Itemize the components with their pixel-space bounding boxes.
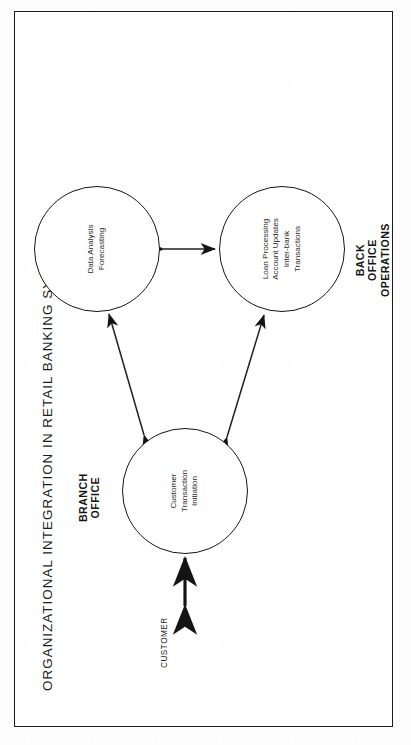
node-back-office-operations-label: BACK OFFICE OPERATIONS bbox=[354, 223, 391, 297]
node-branch-office-label-line-1: BRANCH bbox=[77, 473, 89, 522]
edge-branch-central bbox=[109, 314, 144, 435]
node-back-office-label-line-1: BACK bbox=[354, 223, 366, 297]
node-branch-office-line-1: Customer bbox=[169, 473, 180, 508]
edge-branch-back bbox=[227, 315, 264, 437]
node-central-office-line-2: Forecasting bbox=[97, 228, 108, 270]
node-central-office-line-1: Data Analysis bbox=[86, 224, 97, 273]
node-branch-office-line-3: Initiation bbox=[190, 476, 201, 506]
node-branch-office-line-2: Transaction bbox=[180, 470, 191, 512]
node-back-office-line-1: Loan Processing bbox=[261, 219, 272, 279]
connector-layer bbox=[14, 11, 393, 727]
node-branch-office-label: BRANCH OFFICE bbox=[77, 473, 102, 522]
node-back-office-label-line-3: OPERATIONS bbox=[379, 223, 391, 297]
node-back-office-line-2: Account Updates bbox=[271, 218, 282, 280]
customer-label: CUSTOMER bbox=[160, 617, 169, 668]
node-back-office-operations[interactable]: Loan Processing Account Updates Inter-ba… bbox=[219, 186, 345, 312]
node-back-office-label-line-2: OFFICE bbox=[366, 223, 378, 297]
node-branch-office[interactable]: Customer Transaction Initiation bbox=[122, 428, 248, 554]
node-back-office-line-3: Inter-bank bbox=[282, 231, 293, 267]
scanned-page: ORGANIZATIONAL INTEGRATION IN RETAIL BAN… bbox=[0, 0, 411, 745]
node-branch-office-label-line-2: OFFICE bbox=[89, 473, 101, 522]
node-back-office-line-4: Transactions bbox=[293, 226, 304, 272]
node-central-office[interactable]: Data Analysis Forecasting bbox=[34, 186, 160, 312]
rotated-figure-stage: ORGANIZATIONAL INTEGRATION IN RETAIL BAN… bbox=[14, 11, 393, 727]
